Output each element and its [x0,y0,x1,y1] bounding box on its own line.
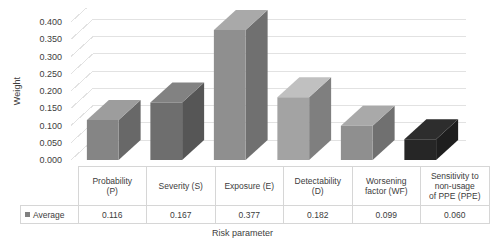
plot-svg [63,8,466,178]
category-label-line: of PPE (PPE) [422,191,488,201]
category-cell: Severity (S) [147,167,216,206]
y-tick-label: 0.200 [39,86,62,96]
category-row-corner [21,167,79,206]
plot-area [63,8,466,178]
category-label-line: Sensitivity to [422,171,488,181]
data-table: Probability(P)Severity (S)Exposure (E)De… [20,166,490,224]
bar-face [277,97,309,160]
gridline [71,54,93,74]
category-label-line: Detectability [285,176,351,186]
category-cell: Worseningfactor (WF) [352,167,421,206]
category-label-line: factor (WF) [354,186,420,196]
value-cell: 0.167 [147,206,216,224]
category-label-line: non-usage [422,181,488,191]
category-label-line: Exposure (E) [217,181,283,191]
y-tick-label: 0.000 [39,155,62,165]
value-cell: 0.182 [284,206,353,224]
legend-entry-average: Average [21,206,79,224]
category-label-line: Worsening [354,176,420,186]
y-tick-label: 0.250 [39,69,62,79]
gridline [71,8,93,22]
bar-face [341,126,373,160]
gridline [71,71,93,91]
x-axis-title: Risk parameter [20,228,465,238]
legend-swatch-icon [25,212,30,217]
value-cell: 0.060 [421,206,490,224]
category-cell: Probability(P) [78,167,147,206]
y-tick-label: 0.150 [39,103,62,113]
gridline [71,88,93,108]
category-label-line: (P) [80,186,146,196]
category-label-line: (D) [285,186,351,196]
y-tick-label: 0.400 [39,17,62,27]
value-cell: 0.099 [352,206,421,224]
legend-label: Average [33,210,65,220]
value-cell: 0.116 [78,206,147,224]
bar-face [246,10,268,160]
value-row: Average 0.1160.1670.3770.1820.0990.060 [21,206,490,224]
y-tick-label: 0.300 [39,52,62,62]
y-axis-tick-labels: 0.4000.3500.3000.2500.2000.1500.1000.050… [20,0,62,182]
category-cell: Detectability(D) [284,167,353,206]
category-row: Probability(P)Severity (S)Exposure (E)De… [21,167,490,206]
bar-face [87,120,119,160]
y-tick-label: 0.050 [39,138,62,148]
gridline [71,19,93,39]
category-label-line: Probability [80,176,146,186]
category-label-line: Severity (S) [148,181,214,191]
category-cell: Sensitivity tonon-usageof PPE (PPE) [421,167,490,206]
bar-face [404,139,436,160]
gridline [71,37,93,57]
bar-face [150,102,182,160]
y-tick-label: 0.350 [39,34,62,44]
value-cell: 0.377 [215,206,284,224]
bar-face [214,30,246,160]
category-cell: Exposure (E) [215,167,284,206]
y-tick-label: 0.100 [39,121,62,131]
